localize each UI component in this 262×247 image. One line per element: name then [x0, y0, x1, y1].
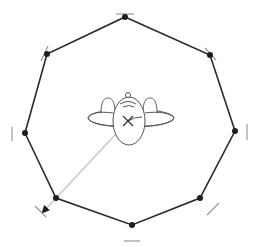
right-engine-icon — [143, 98, 157, 113]
waypoint-upper-right[interactable] — [207, 52, 213, 58]
waypoint-lower-right[interactable] — [197, 195, 203, 201]
diagram-canvas — [0, 0, 262, 247]
waypoint-left[interactable] — [22, 130, 28, 136]
nose-icon — [126, 93, 131, 98]
waypoint-top[interactable] — [122, 14, 128, 20]
waypoint-upper-left[interactable] — [44, 51, 50, 57]
aircraft-icon[interactable] — [88, 93, 174, 146]
left-engine-icon — [101, 98, 115, 113]
holding-pattern-diagram — [0, 0, 262, 247]
waypoint-bottom[interactable] — [129, 222, 135, 228]
waypoint-right[interactable] — [232, 128, 238, 134]
fuselage-shape — [113, 97, 145, 145]
tick-lower-right — [207, 203, 219, 215]
waypoint-lower-left[interactable] — [53, 195, 59, 201]
